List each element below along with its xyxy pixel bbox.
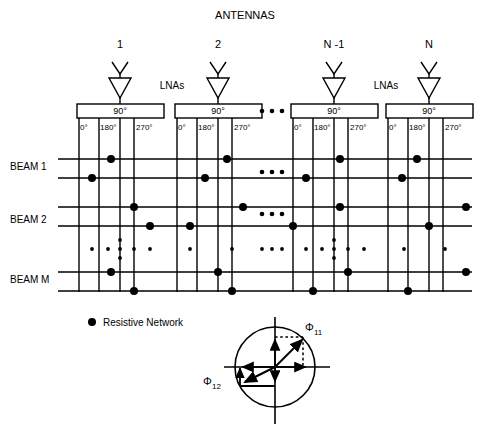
port-label-2-0deg: 0° [178,123,186,132]
junction-dot [88,174,96,182]
legend: Resistive Network [88,317,184,328]
junction-dot [398,174,406,182]
hybrid-label-n-minus-1: 90° [327,106,341,116]
junction-dot [413,155,421,163]
port-label-1-0deg: 0° [80,123,88,132]
hybrid-label-n: 90° [422,106,436,116]
junction-dot [130,203,138,211]
diagram-canvas: ANTENNAS 1 2 N -1 N LNAs LNAs 90° 0° 180… [0,0,490,443]
beam-label-2: BEAM 2 [10,214,47,225]
port-label-4-180deg: 180° [409,123,426,132]
antenna-label-n: N [425,38,433,50]
beam-label-m: BEAM M [10,274,49,285]
junction-dot [336,155,344,163]
horizontal-ellipsis-beam2 [260,212,285,217]
antenna-beamforming-diagram: ANTENNAS 1 2 N -1 N LNAs LNAs 90° 0° 180… [0,0,490,443]
legend-marker-icon [88,318,96,326]
port-label-2-270deg: 270° [234,123,251,132]
phasor-sub-phi12: 12 [212,382,221,391]
junction-dot [289,222,297,230]
lna-label-left: LNAs [160,80,184,91]
hybrid-label-2: 90° [211,106,225,116]
antenna-label-2: 2 [215,38,221,50]
phasor-label-phi11: Φ [305,321,314,333]
junction-dot [186,222,194,230]
junction-dot [309,287,317,295]
junction-dot [239,203,247,211]
port-label-2-180deg: 180° [198,123,215,132]
junction-dot [107,268,115,276]
junction-dot [302,174,310,182]
junction-dot [214,268,222,276]
background [0,0,490,443]
junction-dot [130,287,138,295]
hybrid-label-1: 90° [113,106,127,116]
junction-dot [223,155,231,163]
junction-dot [344,268,352,276]
port-label-3-270deg: 270° [350,123,367,132]
phasor-sub-phi11: 11 [314,328,323,337]
port-label-1-180deg: 180° [100,123,117,132]
junction-dot [425,222,433,230]
junction-dot [462,268,470,276]
antenna-label-1: 1 [117,38,123,50]
port-label-3-180deg: 180° [314,123,331,132]
junction-dot [146,222,154,230]
page-title: ANTENNAS [215,9,275,21]
antenna-label-n-minus-1: N -1 [324,38,345,50]
horizontal-ellipsis-beam1 [260,170,285,175]
junction-dot [404,287,412,295]
port-label-1-270deg: 270° [136,123,153,132]
port-label-4-270deg: 270° [445,123,462,132]
junction-dot [107,155,115,163]
legend-text: Resistive Network [103,317,184,328]
lna-label-right: LNAs [374,80,398,91]
horizontal-ellipsis-hybrid-row [260,109,285,114]
phasor-label-phi12: Φ [203,375,212,387]
junction-dot [462,203,470,211]
junction-dot [201,174,209,182]
junction-dot [336,203,344,211]
port-label-3-0deg: 0° [294,123,302,132]
junction-dot [228,287,236,295]
beam-label-1: BEAM 1 [10,161,47,172]
port-label-4-0deg: 0° [389,123,397,132]
